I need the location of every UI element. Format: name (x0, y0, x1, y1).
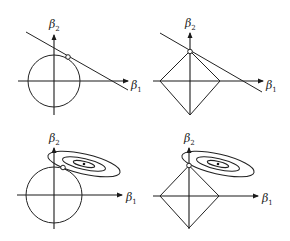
regularization-diagram: β2 β1 β2 β1 β2 β1 (0, 0, 290, 241)
beta2-label: β2 (184, 17, 196, 32)
panel-top-right-lasso-line: β2 β1 (153, 17, 277, 115)
beta1-label: β1 (261, 192, 273, 207)
ols-estimate-point (216, 162, 219, 165)
objective-contours (46, 146, 123, 182)
beta1-label: β1 (125, 191, 137, 206)
tangent-point-marker (61, 165, 66, 170)
panel-bottom-right-lasso-ellipses: β2 β1 (153, 132, 273, 229)
panel-bottom-left-ridge-ellipses: β2 β1 (17, 132, 137, 229)
beta1-label: β1 (265, 79, 277, 94)
panel-top-left-ridge-line: β2 β1 (18, 18, 142, 115)
beta1-label: β1 (130, 79, 142, 94)
beta2-label: β2 (183, 132, 195, 147)
ols-estimate-point (82, 162, 85, 165)
beta2-label: β2 (48, 132, 60, 147)
tangent-point-marker (188, 49, 193, 54)
beta2-label: β2 (48, 18, 60, 33)
objective-line (160, 33, 262, 92)
tangent-point-marker (187, 163, 192, 168)
tangent-point-marker (66, 55, 71, 60)
